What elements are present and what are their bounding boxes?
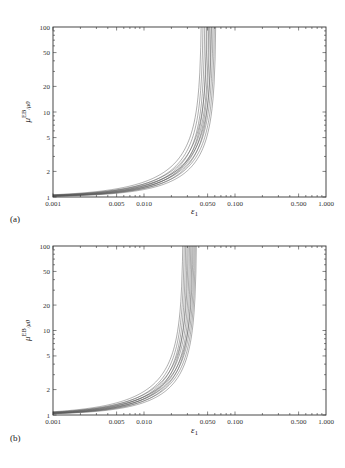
curve [53, 221, 190, 413]
curve [53, 221, 197, 414]
curve [53, 1, 212, 195]
curve [53, 221, 194, 413]
curve [53, 221, 191, 414]
x-tick-label: 1.000 [318, 418, 334, 426]
y-tick-label: 100 [40, 243, 51, 251]
curve-family [53, 1, 216, 196]
curve [53, 221, 187, 414]
x-tick-label: 0.500 [291, 200, 307, 208]
panel-label: (a) [10, 214, 20, 224]
x-axis-title: ε1 [191, 425, 198, 436]
y-tick-label: 5 [47, 134, 51, 142]
y-tick-label: 100 [40, 24, 51, 32]
plot-frame [53, 27, 326, 197]
y-tick-label: 2 [47, 386, 51, 394]
figure: 0.0010.0050.0100.0500.1000.5001.00012510… [0, 0, 345, 468]
y-tick-label: 10 [43, 327, 51, 335]
y-axis-title: μEB/μ0 [20, 101, 32, 124]
y-tick-label: 1 [47, 194, 51, 202]
y-tick-label: 20 [43, 302, 51, 310]
y-tick-label: 20 [43, 83, 51, 91]
curve [53, 1, 203, 195]
x-tick-label: 0.010 [136, 418, 152, 426]
x-axis-title: ε1 [191, 206, 198, 217]
x-tick-label: 0.500 [291, 418, 307, 426]
curve-family [53, 221, 197, 414]
x-tick-label: 0.005 [109, 418, 125, 426]
chart-panel-b: 0.0010.0050.0100.0500.1000.5001.00012510… [10, 221, 334, 443]
curve [53, 1, 213, 195]
y-tick-label: 5 [47, 352, 51, 360]
panel-label: (b) [10, 433, 21, 443]
curve [53, 221, 195, 413]
y-tick-label: 2 [47, 168, 51, 176]
x-tick-label: 0.010 [136, 200, 152, 208]
curve [53, 221, 196, 414]
curve [53, 221, 189, 413]
curve [53, 1, 216, 196]
x-tick-label: 0.100 [227, 418, 243, 426]
x-tick-label: 0.005 [109, 200, 125, 208]
y-tick-label: 50 [43, 268, 51, 276]
x-tick-label: 0.050 [200, 200, 216, 208]
chart-panel-a: 0.0010.0050.0100.0500.1000.5001.00012510… [10, 1, 334, 224]
curve [53, 221, 185, 413]
y-tick-label: 1 [47, 412, 51, 420]
y-tick-label: 10 [43, 109, 51, 117]
curve [53, 221, 186, 413]
x-tick-label: 0.100 [227, 200, 243, 208]
x-tick-label: 1.000 [318, 200, 334, 208]
curve [53, 1, 215, 196]
curve [53, 1, 211, 196]
y-tick-label: 50 [43, 49, 51, 57]
x-tick-label: 0.050 [200, 418, 216, 426]
y-axis-title: μEB/μ0 [20, 319, 32, 342]
curve [53, 221, 192, 414]
